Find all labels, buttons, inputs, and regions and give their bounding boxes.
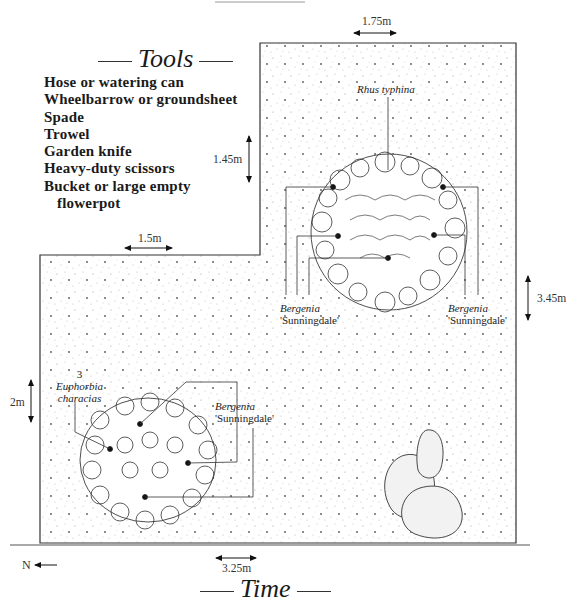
dimension-right-height: 3.45m	[537, 292, 566, 304]
tool-item: Wheelbarrow or groundsheet	[44, 91, 238, 108]
tools-heading: Tools	[92, 44, 239, 74]
tool-item: flowerpot	[44, 195, 238, 212]
label-rhus-typhina: Rhus typhina	[357, 83, 415, 95]
label-bergenia-right: Bergenia 'Sunningdale'	[448, 302, 507, 326]
tool-item: Trowel	[44, 126, 238, 143]
dimension-step-width: 1.5m	[138, 232, 161, 244]
label-bergenia-left: Bergenia 'Sunningdale'	[280, 302, 339, 326]
dimension-bottom-width: 3.25m	[222, 562, 251, 574]
tool-item: Heavy-duty scissors	[44, 160, 238, 177]
dimension-left-height: 2m	[10, 396, 25, 408]
north-indicator: N	[22, 558, 31, 573]
label-euphorbia: 3 Euphorbia characias	[56, 368, 103, 404]
dimension-top-width: 1.75m	[362, 15, 391, 27]
tool-item: Garden knife	[44, 143, 238, 160]
tool-item: Hose or watering can	[44, 74, 238, 91]
tools-list: Hose or watering can Wheelbarrow or grou…	[44, 74, 238, 212]
time-heading: Time	[194, 574, 337, 604]
tool-item: Bucket or large empty	[44, 178, 238, 195]
label-bergenia-lower: Bergenia 'Sunningdale'	[215, 400, 274, 424]
tool-item: Spade	[44, 109, 238, 126]
dimension-upper-height: 1.45m	[213, 153, 242, 165]
rhus-bed	[311, 152, 467, 312]
